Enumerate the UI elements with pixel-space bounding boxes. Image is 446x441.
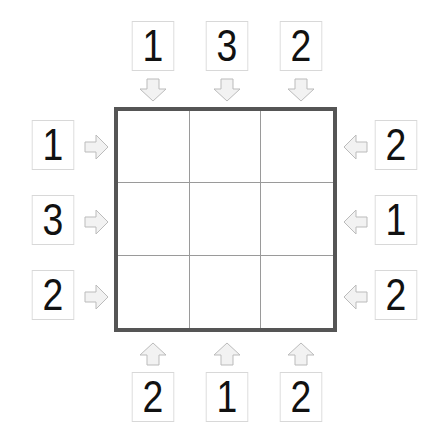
arrow-right-icon [84, 133, 110, 161]
grid-cell-r2c3[interactable] [261, 183, 333, 255]
grid-cell-r3c2[interactable] [190, 256, 262, 328]
clue-top-3: 2 [280, 21, 323, 71]
clue-right-3: 2 [375, 270, 418, 320]
arrow-left-icon [342, 133, 368, 161]
grid-cell-r2c1[interactable] [118, 183, 190, 255]
grid-cell-r3c3[interactable] [261, 256, 333, 328]
clue-right-2: 1 [375, 195, 418, 245]
arrow-up-icon [138, 342, 168, 366]
clue-right-1: 2 [375, 120, 418, 170]
clue-left-1: 1 [32, 120, 75, 170]
grid-cell-r1c3[interactable] [261, 111, 333, 183]
arrow-right-icon [84, 208, 110, 236]
puzzle-grid [114, 107, 337, 332]
arrow-right-icon [84, 283, 110, 311]
grid-cell-r2c2[interactable] [190, 183, 262, 255]
arrow-down-icon [212, 78, 242, 102]
clue-bottom-3: 2 [280, 372, 323, 422]
arrow-up-icon [212, 342, 242, 366]
grid-cell-r1c2[interactable] [190, 111, 262, 183]
clue-top-2: 3 [206, 21, 249, 71]
clue-bottom-2: 1 [206, 372, 249, 422]
arrow-down-icon [138, 78, 168, 102]
arrow-down-icon [286, 78, 316, 102]
grid-cell-r1c1[interactable] [118, 111, 190, 183]
clue-bottom-1: 2 [132, 372, 175, 422]
clue-left-2: 3 [32, 195, 75, 245]
arrow-up-icon [286, 342, 316, 366]
clue-left-3: 2 [32, 270, 75, 320]
arrow-left-icon [342, 208, 368, 236]
grid-cell-r3c1[interactable] [118, 256, 190, 328]
clue-top-1: 1 [132, 21, 175, 71]
arrow-left-icon [342, 283, 368, 311]
